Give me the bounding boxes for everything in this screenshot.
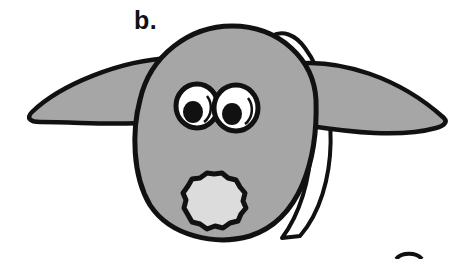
partial-arc [396,254,422,259]
nose-pompom [183,173,246,229]
right-eye [214,85,258,131]
sheep-illustration [0,0,466,259]
